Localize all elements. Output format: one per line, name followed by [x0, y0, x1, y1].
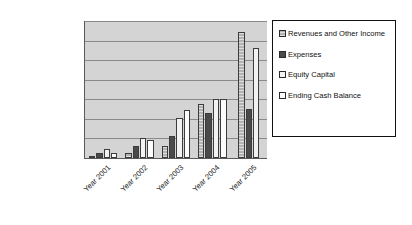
x-axis-tick-label: Year 2004 — [184, 163, 221, 200]
legend-swatch-icon — [279, 51, 286, 58]
bar — [111, 153, 117, 158]
bar — [169, 136, 175, 158]
legend-item[interactable]: Revenues and Other Income — [279, 29, 390, 39]
bar — [96, 153, 102, 158]
bar — [89, 156, 95, 158]
legend-items: Revenues and Other IncomeExpensesEquity … — [279, 29, 390, 100]
legend-item-label: Equity Capital — [288, 70, 335, 80]
legend-swatch-icon — [279, 92, 286, 99]
bar-chart: $35,000,000$30,000,000$25,000,000$20,000… — [0, 0, 412, 225]
bar — [140, 138, 146, 158]
bar-group — [231, 21, 267, 158]
legend-item-label: Revenues and Other Income — [288, 29, 385, 39]
bar — [133, 146, 139, 158]
bar — [162, 146, 168, 158]
bar-group — [194, 21, 230, 158]
x-axis: Year 2001Year 2002Year 2003Year 2004Year… — [84, 159, 266, 219]
bar — [220, 99, 226, 158]
bar — [176, 118, 182, 158]
bar-group — [85, 21, 121, 158]
x-axis-tick-label: Year 2003 — [148, 163, 185, 200]
plot-area — [84, 21, 267, 159]
bar — [198, 104, 204, 158]
legend-swatch-icon — [279, 30, 286, 37]
bar-group — [121, 21, 157, 158]
x-axis-tick-label: Year 2002 — [111, 163, 148, 200]
legend-item[interactable]: Expenses — [279, 50, 390, 60]
legend-item[interactable]: Ending Cash Balance — [279, 91, 390, 101]
legend-item-label: Expenses — [288, 50, 321, 60]
bar — [253, 48, 259, 158]
bar — [205, 113, 211, 158]
y-axis: $35,000,000$30,000,000$25,000,000$20,000… — [0, 0, 80, 225]
bar — [246, 109, 252, 158]
legend-item-label: Ending Cash Balance — [288, 91, 361, 101]
legend-swatch-icon — [279, 71, 286, 78]
bar — [213, 99, 219, 158]
x-axis-tick-label: Year 2005 — [221, 163, 258, 200]
bar — [104, 149, 110, 158]
bar — [184, 110, 190, 158]
bar-group — [158, 21, 194, 158]
bar — [147, 140, 153, 158]
bar — [125, 153, 131, 158]
legend: Revenues and Other IncomeExpensesEquity … — [272, 20, 396, 137]
bars-layer — [85, 21, 267, 158]
x-axis-tick-label: Year 2001 — [75, 163, 112, 200]
legend-item[interactable]: Equity Capital — [279, 70, 390, 80]
bar — [238, 32, 244, 158]
